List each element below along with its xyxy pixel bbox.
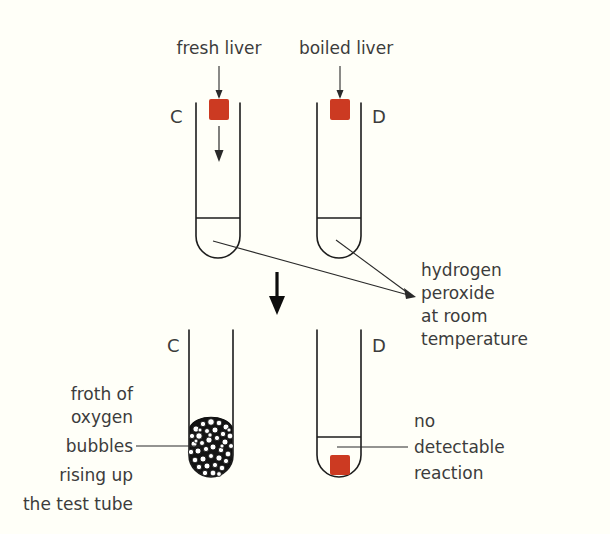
h2o2-leader-head	[404, 288, 416, 299]
h2o2-leader-from-d	[336, 240, 412, 296]
progression-arrow-head	[269, 296, 285, 315]
diagram-canvas: fresh liver boiled liver C D C D hydroge…	[0, 0, 610, 534]
boiled-liver-cube-settled	[330, 455, 350, 475]
froth-label-line-5: the test tube	[23, 494, 133, 514]
test-tube-d-bottom-glass	[317, 330, 361, 477]
fresh-liver-label: fresh liver	[176, 38, 261, 58]
test-tube-c-top-glass	[196, 103, 240, 258]
h2o2-leader-from-c	[213, 241, 412, 296]
froth-label-line-4: rising up	[59, 465, 133, 485]
tube-id-c-top: C	[170, 106, 183, 127]
liver-drop-arrow-head	[215, 150, 224, 162]
froth-label-line-2: oxygen	[71, 407, 133, 427]
no-reaction-label-line-3: reaction	[414, 463, 483, 483]
no-reaction-label-line-2: detectable	[414, 437, 505, 457]
test-tube-d-top-glass	[317, 103, 361, 258]
hydrogen-peroxide-label-line-3: at room	[421, 306, 487, 326]
boiled-liver-cube	[330, 99, 350, 120]
experiment-diagram: fresh liver boiled liver C D C D hydroge…	[0, 0, 610, 534]
boiled-liver-label: boiled liver	[299, 38, 393, 58]
hydrogen-peroxide-label-line-1: hydrogen	[421, 260, 502, 280]
no-reaction-label-line-1: no	[414, 411, 435, 431]
hydrogen-peroxide-label-line-4: temperature	[421, 329, 528, 349]
tube-id-d-bottom: D	[372, 335, 386, 356]
froth-label-line-1: froth of	[71, 384, 134, 404]
froth-label-line-3: bubbles	[66, 436, 133, 456]
tube-id-c-bottom: C	[167, 335, 180, 356]
tube-id-d-top: D	[372, 106, 386, 127]
hydrogen-peroxide-label-line-2: peroxide	[421, 283, 495, 303]
boiled-liver-leader-head	[337, 90, 344, 99]
fresh-liver-leader-head	[216, 90, 223, 99]
fresh-liver-cube	[209, 99, 229, 120]
